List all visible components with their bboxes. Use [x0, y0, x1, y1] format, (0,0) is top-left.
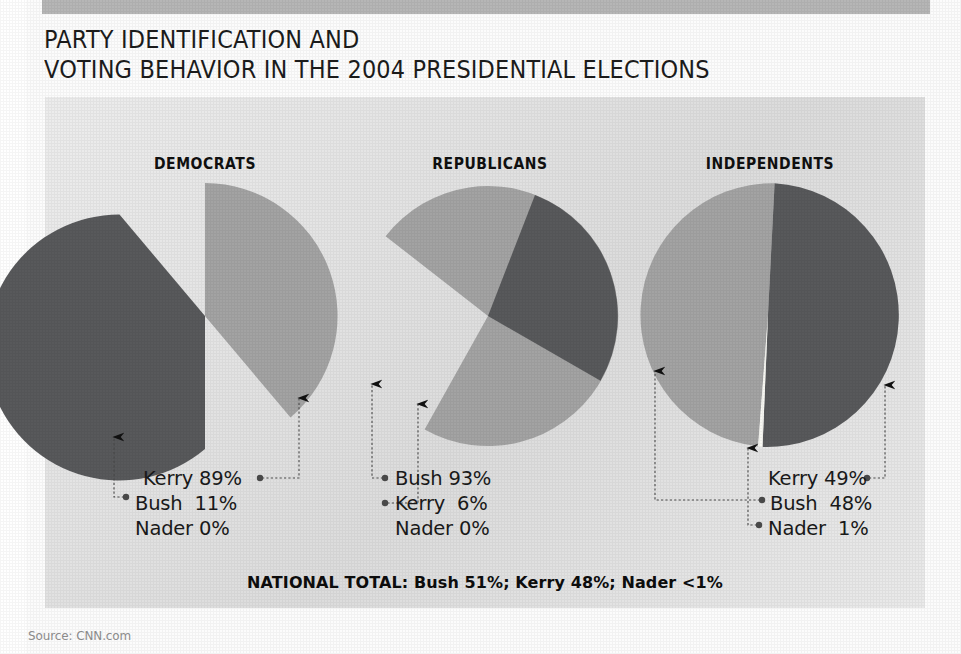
leader-independents-nader	[748, 448, 757, 525]
leader-dot-independents-nader	[756, 522, 762, 528]
label-democrats-nader: Nader 0%	[135, 517, 229, 540]
leader-dot-independents-bush	[759, 497, 765, 503]
label-republicans-kerry: Kerry 6%	[395, 492, 488, 515]
label-republicans-bush: Bush 93%	[395, 467, 491, 490]
figure-page: PARTY IDENTIFICATION AND VOTING BEHAVIOR…	[0, 0, 961, 654]
slice-independents-bush	[640, 183, 774, 446]
pie-independents	[640, 183, 898, 447]
pie-republicans	[386, 186, 628, 446]
source-credit: Source: CNN.com	[28, 628, 131, 643]
leader-dot-democrats-bush	[123, 494, 129, 500]
label-republicans-nader: Nader 0%	[395, 517, 489, 540]
label-democrats-bush: Bush 11%	[135, 492, 237, 515]
label-independents-nader: Nader 1%	[768, 517, 868, 540]
slice-independents-kerry	[763, 183, 899, 447]
leader-dot-republicans-kerry	[382, 500, 388, 506]
leader-independents-kerry	[869, 385, 885, 478]
pie-democrats	[0, 183, 338, 480]
pie-charts-svg	[0, 0, 961, 654]
leader-dot-republicans-bush	[382, 475, 388, 481]
label-democrats-kerry: Kerry 89%	[143, 467, 242, 490]
label-independents-kerry: Kerry 49%	[768, 467, 867, 490]
slice-democrats-kerry	[0, 214, 205, 480]
slice-democrats-bush	[205, 183, 338, 418]
leader-dot-democrats-kerry	[257, 475, 263, 481]
national-total-line: NATIONAL TOTAL: Bush 51%; Kerry 48%; Nad…	[58, 573, 912, 592]
leader-republicans-bush	[372, 384, 383, 478]
label-independents-bush: Bush 48%	[770, 492, 872, 515]
